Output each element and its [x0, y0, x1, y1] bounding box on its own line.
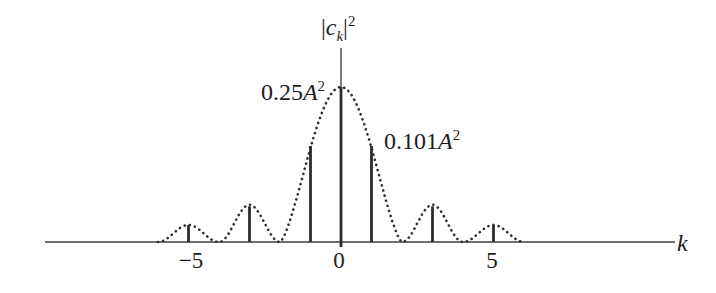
power-spectrum-figure: |ck|2 0.25A2 0.101A2 k −5 0 5 — [0, 0, 716, 293]
peak-value-superscript: 2 — [318, 78, 325, 94]
peak-value-annotation: 0.25A2 — [241, 78, 325, 105]
x-axis-label-k: k — [677, 230, 688, 256]
y-axis-title: |ck|2 — [321, 13, 355, 44]
side-value-variable: A — [438, 128, 453, 154]
title-c: c — [326, 14, 337, 40]
side-value-superscript: 2 — [453, 127, 460, 143]
tick-label-5: 5 — [462, 248, 522, 274]
side-value-number: 0.101 — [384, 128, 438, 154]
first-harmonic-value-annotation: 0.101A2 — [384, 127, 460, 154]
peak-value-variable: A — [303, 79, 318, 105]
peak-value-number: 0.25 — [261, 79, 303, 105]
tick-label-0: 0 — [309, 248, 369, 274]
title-superscript-2: 2 — [348, 13, 355, 29]
tick-label-minus5: −5 — [161, 248, 221, 274]
